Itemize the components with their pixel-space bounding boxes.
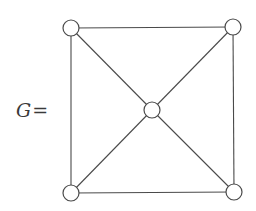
graph-figure: G= xyxy=(0,0,256,211)
edge-top-left-center xyxy=(71,28,152,110)
node-bottom-right xyxy=(226,184,242,200)
edge-bottom-left-bottom-right xyxy=(71,192,234,193)
edge-top-right-bottom-right xyxy=(233,27,234,192)
edge-bottom-right-center xyxy=(152,110,234,192)
graph-drawing xyxy=(0,0,256,211)
node-center xyxy=(144,102,160,118)
edge-top-left-top-right xyxy=(71,27,233,28)
edge-top-right-center xyxy=(152,27,233,110)
node-top-left xyxy=(63,20,79,36)
node-bottom-left xyxy=(63,185,79,201)
node-top-right xyxy=(225,19,241,35)
edge-bottom-left-center xyxy=(71,110,152,193)
